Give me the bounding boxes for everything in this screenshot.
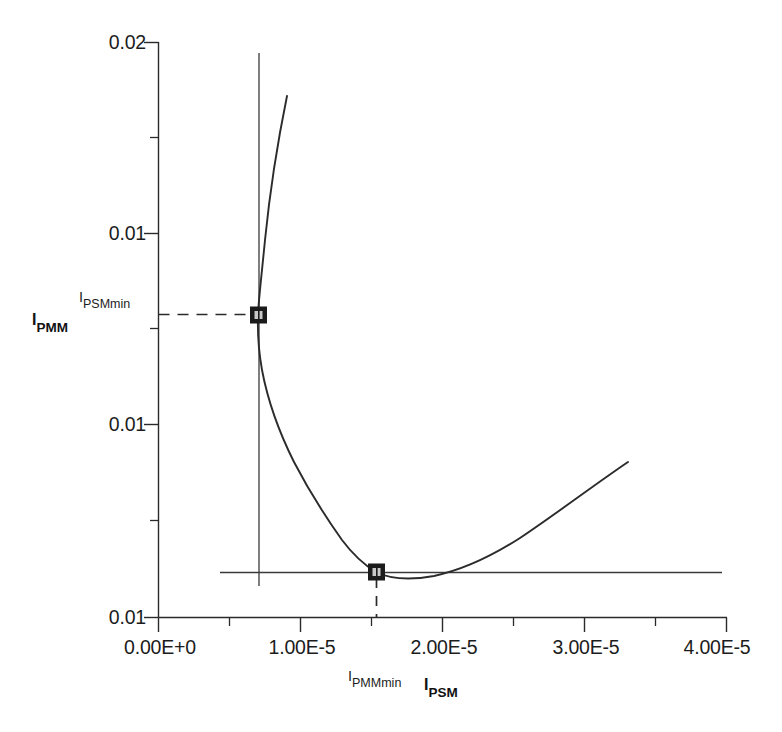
x-major-ticks (159, 618, 727, 633)
y-minor-ticks (150, 138, 159, 521)
data-curve-ipmm-vs-ipsm (258, 96, 628, 579)
chart-plot-area (0, 0, 782, 732)
marker-ipmmmin (368, 564, 385, 581)
figure-page: 0.02 0.01 0.01 0.01 0.00E+0 1.00E-5 2.00… (0, 0, 782, 732)
marker-ipsmmin (250, 307, 267, 324)
y-major-ticks (144, 43, 159, 618)
